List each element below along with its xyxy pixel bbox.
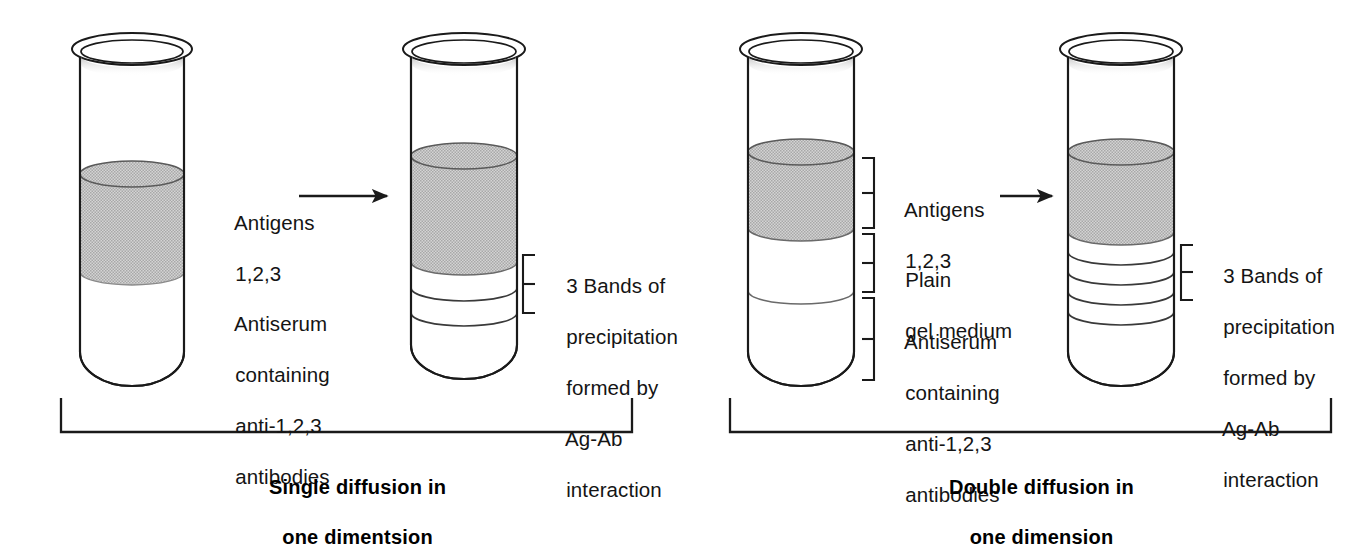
label-antiserum-left-line1: Antiserum bbox=[234, 312, 327, 335]
caption-double-line1: Double diffusion in bbox=[949, 476, 1134, 498]
test-tube-single-before bbox=[72, 33, 192, 386]
label-antigens-left-line1: Antigens bbox=[234, 211, 315, 234]
bracket-bands-left bbox=[523, 255, 535, 313]
label-bands-left-line3: formed by bbox=[566, 376, 658, 399]
caption-double-diffusion: Double diffusion in one dimension bbox=[880, 450, 1180, 548]
label-plain-gel-right-line1: Plain bbox=[905, 268, 951, 291]
label-bands-left-line5: interaction bbox=[566, 478, 662, 501]
label-bands-right-line4: Ag-Ab bbox=[1222, 417, 1279, 440]
caption-single-line2: one dimentsion bbox=[282, 526, 433, 548]
label-bands-left: 3 Bands of precipitation formed by Ag-Ab… bbox=[543, 247, 678, 528]
bracket-plain-gel-right bbox=[862, 234, 874, 292]
label-bands-right-line3: formed by bbox=[1223, 366, 1315, 389]
caption-single-diffusion: Single diffusion in one dimentsion bbox=[196, 450, 496, 548]
test-tube-double-after bbox=[1060, 33, 1182, 386]
label-antiserum-right-line1: Antiserum bbox=[904, 330, 997, 353]
label-bands-right: 3 Bands of precipitation formed by Ag-Ab… bbox=[1200, 237, 1335, 518]
label-bands-right-line2: precipitation bbox=[1223, 315, 1335, 338]
test-tube-double-before bbox=[740, 33, 862, 386]
label-antiserum-left-line2: containing bbox=[235, 363, 329, 386]
label-antigens-right-line1: Antigens bbox=[904, 198, 985, 221]
caption-single-line1: Single diffusion in bbox=[269, 476, 446, 498]
label-antiserum-right-line2: containing bbox=[905, 381, 999, 404]
label-bands-right-line5: interaction bbox=[1223, 468, 1319, 491]
bracket-antigens-right bbox=[862, 158, 874, 228]
label-antigens-left-line2: 1,2,3 bbox=[235, 262, 281, 285]
label-bands-right-line1: 3 Bands of bbox=[1223, 264, 1322, 287]
test-tube-single-after bbox=[403, 33, 525, 379]
label-antiserum-left-line3: anti-1,2,3 bbox=[235, 414, 321, 437]
label-bands-left-line4: Ag-Ab bbox=[565, 427, 622, 450]
caption-double-line2: one dimension bbox=[970, 526, 1114, 548]
label-bands-left-line1: 3 Bands of bbox=[566, 274, 665, 297]
label-bands-left-line2: precipitation bbox=[566, 325, 678, 348]
bracket-bands-right bbox=[1181, 245, 1193, 300]
bracket-antiserum-right bbox=[862, 298, 874, 380]
